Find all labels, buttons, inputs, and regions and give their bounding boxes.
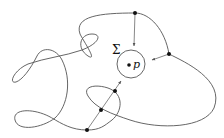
dot-lower-3 xyxy=(85,128,89,132)
arrow-bottom xyxy=(87,81,121,130)
arrow-right xyxy=(152,54,169,60)
center-point-dot xyxy=(127,63,131,67)
arrow-top xyxy=(134,13,135,46)
sigma-circle xyxy=(117,50,145,78)
dot-lower-2 xyxy=(99,108,103,112)
sigma-label: Σ xyxy=(112,43,120,57)
dot-top xyxy=(133,11,137,15)
point-label: p xyxy=(133,58,140,71)
diagram-canvas: Σ p xyxy=(0,0,224,138)
dot-right xyxy=(167,52,171,56)
closed-curve xyxy=(12,13,215,130)
dot-lower-1 xyxy=(113,89,117,93)
